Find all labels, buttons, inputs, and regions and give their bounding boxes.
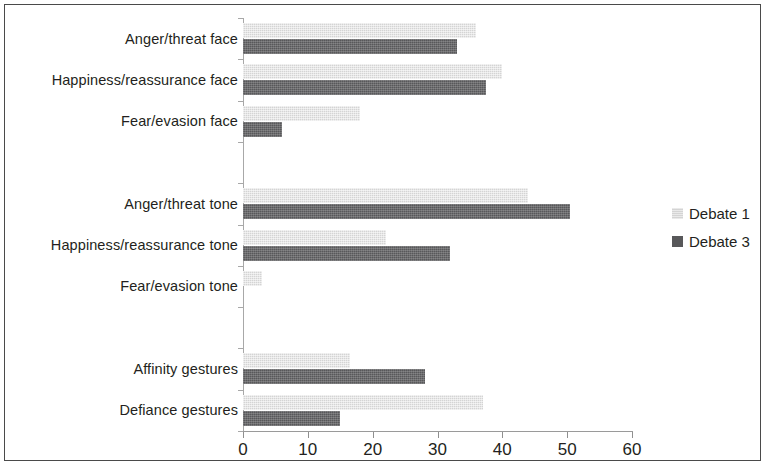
x-axis-tick	[567, 432, 568, 438]
bar-debate-3	[243, 39, 457, 54]
chart-legend: Debate 1Debate 3	[672, 204, 762, 260]
x-axis-tick	[502, 432, 503, 438]
y-axis-tick	[238, 431, 243, 432]
bar-debate-1	[243, 230, 386, 245]
bar-debate-1	[243, 395, 483, 410]
x-axis-tick-label: 40	[493, 440, 512, 460]
bar-group	[243, 101, 632, 142]
bar-debate-1	[243, 353, 350, 368]
y-axis-tick	[238, 307, 243, 308]
x-axis-tick-label: 30	[428, 440, 447, 460]
bar-debate-3	[243, 80, 486, 95]
x-axis-tick-label: 0	[238, 440, 247, 460]
y-axis-tick	[238, 59, 243, 60]
bar-debate-1	[243, 64, 502, 79]
bar-group	[243, 307, 632, 348]
category-label: Defiance gestures	[119, 402, 238, 418]
y-axis-tick	[238, 18, 243, 19]
bar-debate-1	[243, 106, 360, 121]
plot-area	[243, 18, 632, 431]
category-label-row: Fear/evasion face	[10, 101, 238, 142]
category-label-row: Fear/evasion tone	[10, 266, 238, 307]
category-label-row: Affinity gestures	[10, 348, 238, 389]
x-axis-tick	[243, 432, 244, 438]
y-axis-tick	[238, 390, 243, 391]
x-axis-tick-label: 20	[363, 440, 382, 460]
category-spacer-row	[10, 142, 238, 183]
x-axis-tick-label: 50	[558, 440, 577, 460]
chart-figure: Anger/threat faceHappiness/reassurance f…	[0, 0, 769, 469]
category-label: Anger/threat tone	[124, 196, 238, 212]
bar-group	[243, 18, 632, 59]
bar-group	[243, 183, 632, 224]
bar-group	[243, 348, 632, 389]
bar-debate-3	[243, 246, 450, 261]
y-axis-tick	[238, 348, 243, 349]
bar-debate-1	[243, 23, 476, 38]
category-label-row: Defiance gestures	[10, 390, 238, 431]
bar-group	[243, 59, 632, 100]
category-spacer-row	[10, 307, 238, 348]
x-axis-tick	[308, 432, 309, 438]
legend-label: Debate 1	[689, 205, 750, 222]
y-axis-tick	[238, 183, 243, 184]
bar-group	[243, 266, 632, 307]
x-axis-tick-label: 60	[623, 440, 642, 460]
legend-swatch-icon	[672, 208, 683, 219]
bar-debate-1	[243, 188, 528, 203]
bar-debate-3	[243, 411, 340, 426]
x-axis-tick	[632, 432, 633, 438]
bar-group	[243, 225, 632, 266]
bar-debate-1	[243, 271, 262, 286]
category-label: Affinity gestures	[133, 361, 238, 377]
legend-label: Debate 3	[689, 233, 750, 250]
y-axis-tick	[238, 225, 243, 226]
category-label: Happiness/reassurance face	[52, 72, 238, 88]
bar-group	[243, 390, 632, 431]
category-label-row: Happiness/reassurance face	[10, 59, 238, 100]
legend-item[interactable]: Debate 1	[672, 204, 762, 222]
bar-group	[243, 142, 632, 183]
category-label-row: Anger/threat face	[10, 18, 238, 59]
category-label: Happiness/reassurance tone	[51, 237, 238, 253]
category-label-row: Anger/threat tone	[10, 183, 238, 224]
category-label: Fear/evasion face	[121, 113, 238, 129]
category-label: Fear/evasion tone	[120, 278, 238, 294]
x-axis-tick-label: 10	[298, 440, 317, 460]
legend-swatch-icon	[672, 236, 683, 247]
category-label: Anger/threat face	[125, 31, 238, 47]
legend-item[interactable]: Debate 3	[672, 232, 762, 250]
category-axis-labels: Anger/threat faceHappiness/reassurance f…	[10, 18, 238, 431]
bar-debate-3	[243, 204, 570, 219]
x-axis-tick	[373, 432, 374, 438]
y-axis-tick	[238, 101, 243, 102]
y-axis-tick	[238, 266, 243, 267]
y-axis-tick	[238, 142, 243, 143]
category-label-row: Happiness/reassurance tone	[10, 225, 238, 266]
bar-debate-3	[243, 369, 425, 384]
bar-debate-3	[243, 122, 282, 137]
x-axis-tick	[438, 432, 439, 438]
